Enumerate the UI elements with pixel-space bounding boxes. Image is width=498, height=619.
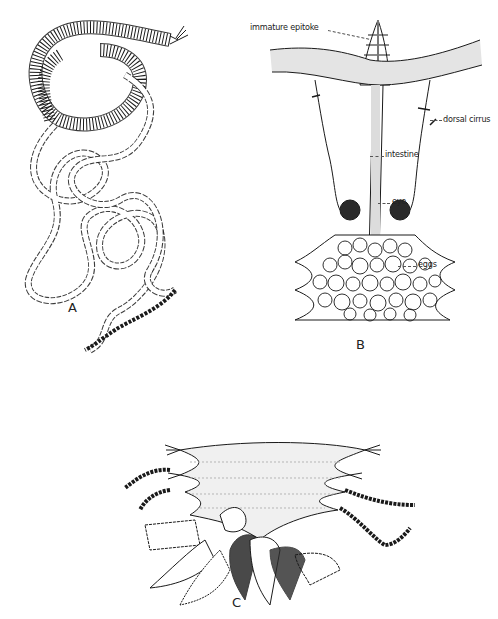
annotation-eggs: eggs [418,259,437,269]
leader-dorsal-cirrus [430,120,442,121]
annotation-immature-epitoke: immature epitoke [250,22,319,32]
panel-label-b: B [356,337,365,352]
panel-c: C [120,420,420,619]
panel-a: A [0,0,240,360]
panel-b: immature epitoke dorsal cirrus intestine… [250,0,498,360]
worm-drawing-a [0,0,240,360]
leader-eye [378,203,390,204]
annotation-intestine: intestine [385,149,419,159]
leader-eggs [398,266,416,267]
leader-intestine [370,156,384,157]
segment-drawing-c [120,420,420,619]
annotation-dorsal-cirrus: dorsal cirrus [443,114,490,124]
panel-label-a: A [68,300,77,315]
annotation-eye: eye [392,196,406,206]
segment-drawing-b [250,0,498,360]
panel-label-c: C [232,595,241,610]
